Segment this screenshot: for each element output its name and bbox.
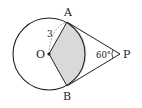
geometry-diagram: A B O P 3 60° — [0, 0, 142, 108]
label-B: B — [63, 90, 71, 103]
label-A: A — [63, 6, 73, 19]
angle-arc-P — [112, 50, 113, 58]
center-point-O — [47, 52, 50, 55]
label-O: O — [36, 48, 45, 61]
label-P: P — [123, 48, 131, 61]
shaded-region — [49, 22, 87, 86]
radius-label: 3 — [47, 29, 53, 39]
angle-label: 60° — [96, 50, 111, 60]
